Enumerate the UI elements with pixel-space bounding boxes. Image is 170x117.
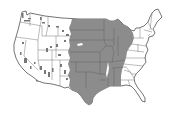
us-distribution-map: Present / distribution range Not present: [0, 0, 170, 117]
map-canvas: [0, 0, 170, 117]
